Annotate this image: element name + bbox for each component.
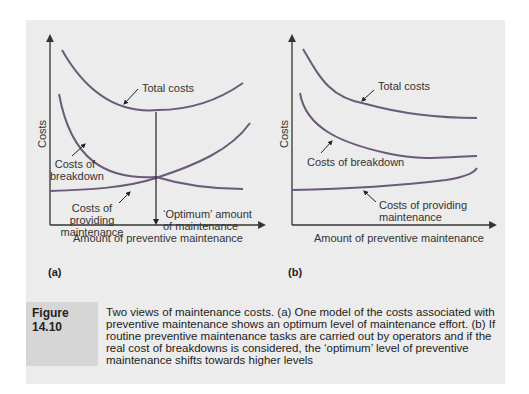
y-axis-label-a: Costs (36, 120, 48, 148)
providing-label-b: Costs of providing maintenance (379, 199, 467, 223)
panel-b-axes (292, 38, 493, 225)
optimum-label: ‘Optimum’ amount of maintenance (163, 208, 252, 232)
y-axis-label-b: Costs (278, 120, 290, 148)
total-costs-label-a: Total costs (142, 82, 194, 94)
caption-text: Two views of maintenance costs. (a) One … (106, 306, 496, 366)
sublabel-a: (a) (48, 266, 61, 278)
total-cost-curve-a (62, 50, 243, 110)
breakdown-label-b: Costs of breakdown (307, 156, 404, 168)
providing-curve-b (292, 168, 477, 190)
x-axis-label-b: Amount of preventive maintenance (314, 232, 484, 244)
total-costs-label-b: Total costs (378, 80, 430, 92)
figure-caption: Figure 14.10 Two views of maintenance co… (26, 302, 505, 384)
panel-b-curves (292, 49, 477, 190)
breakdown-curve-b (300, 93, 477, 158)
sublabel-b: (b) (288, 266, 302, 278)
x-axis-label-a: Amount of preventive maintenance (73, 232, 243, 244)
breakdown-label-a: Costs of breakdown (50, 158, 100, 182)
figure-number: Figure 14.10 (26, 302, 98, 366)
